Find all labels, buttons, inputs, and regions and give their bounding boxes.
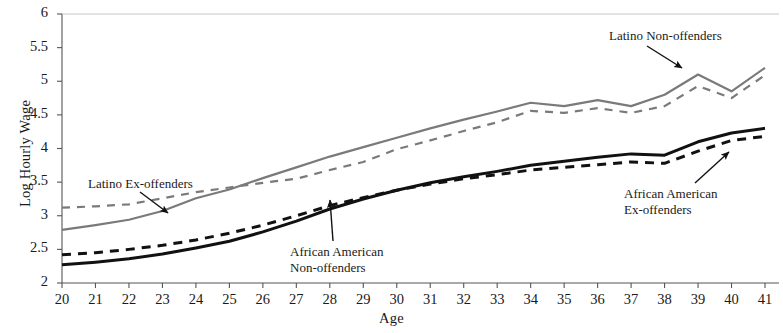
y-tick-label: 4: [8, 139, 48, 156]
x-tick-label: 30: [380, 291, 414, 308]
x-tick-label: 37: [614, 291, 648, 308]
arrow-african-american-ex-offenders: [695, 152, 729, 183]
x-tick-label: 25: [212, 291, 246, 308]
x-tick-label: 33: [480, 291, 514, 308]
y-tick-label: 2: [8, 273, 48, 290]
y-tick-label: 6: [8, 4, 48, 21]
x-tick-label: 35: [547, 291, 581, 308]
x-tick-label: 38: [648, 291, 682, 308]
x-tick-label: 23: [145, 291, 179, 308]
annotation-african-american-ex-offenders: African American Ex-offenders: [624, 186, 717, 219]
x-tick-label: 21: [78, 291, 112, 308]
x-tick-label: 32: [447, 291, 481, 308]
y-tick-label: 5: [8, 71, 48, 88]
x-tick-label: 29: [346, 291, 380, 308]
annotation-latino-non-offenders: Latino Non-offenders: [609, 28, 722, 44]
y-tick-label: 5.5: [8, 38, 48, 55]
y-tick-label: 2.5: [8, 239, 48, 256]
axis-ticks: [57, 14, 765, 288]
y-tick-label: 4.5: [8, 105, 48, 122]
chart-plot-area: [0, 0, 783, 333]
arrow-latino-non-offenders: [647, 46, 682, 68]
plot-frame: [62, 14, 779, 283]
x-tick-label: 27: [279, 291, 313, 308]
x-tick-label: 40: [715, 291, 749, 308]
x-axis-title: Age: [0, 310, 783, 327]
x-tick-label: 20: [45, 291, 79, 308]
data-series-group: [62, 68, 765, 265]
x-tick-label: 31: [413, 291, 447, 308]
x-tick-label: 24: [179, 291, 213, 308]
x-tick-label: 26: [246, 291, 280, 308]
y-tick-label: 3.5: [8, 172, 48, 189]
x-tick-label: 28: [313, 291, 347, 308]
annotation-african-american-non-offenders: African American Non-offenders: [290, 244, 383, 277]
y-tick-label: 3: [8, 206, 48, 223]
x-tick-label: 34: [514, 291, 548, 308]
chart-figure: Log Hourly Wage Age 22.533.544.555.56 20…: [0, 0, 783, 333]
x-tick-label: 39: [681, 291, 715, 308]
x-tick-label: 22: [112, 291, 146, 308]
x-tick-label: 36: [581, 291, 615, 308]
x-tick-label: 41: [748, 291, 782, 308]
annotation-latino-ex-offenders: Latino Ex-offenders: [88, 176, 193, 192]
